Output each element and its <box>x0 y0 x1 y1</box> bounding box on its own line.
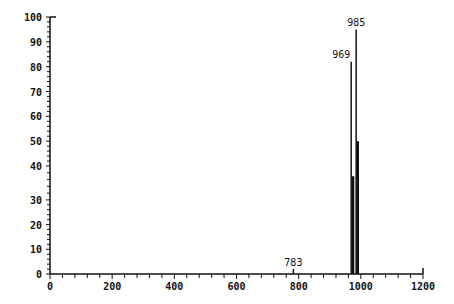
y-axis: 0102030405060708090100 <box>24 12 56 280</box>
x-axis: 020040060080010001200 <box>47 268 435 292</box>
y-tick-label: 10 <box>30 244 42 255</box>
y-tick-label: 40 <box>30 161 42 172</box>
x-tick-label: 400 <box>165 281 183 292</box>
y-tick-label: 30 <box>30 195 42 206</box>
peak-label: 783 <box>284 257 302 268</box>
peaks: 783969985 <box>284 17 365 274</box>
x-tick-label: 1000 <box>349 281 373 292</box>
x-tick-label: 600 <box>227 281 245 292</box>
y-tick-label: 70 <box>30 87 42 98</box>
spectrum-chart: 0102030405060708090100 02004006008001000… <box>0 0 454 304</box>
x-tick-label: 1200 <box>411 281 435 292</box>
y-tick-label: 100 <box>24 12 42 23</box>
y-tick-label: 0 <box>36 269 42 280</box>
peak-label: 985 <box>347 17 365 28</box>
y-tick-label: 20 <box>30 220 42 231</box>
x-tick-label: 0 <box>47 281 53 292</box>
peak-label: 969 <box>332 49 350 60</box>
x-tick-label: 200 <box>103 281 121 292</box>
y-tick-label: 50 <box>30 136 42 147</box>
y-tick-label: 90 <box>30 37 42 48</box>
x-tick-label: 800 <box>290 281 308 292</box>
y-tick-label: 80 <box>30 62 42 73</box>
y-tick-label: 60 <box>30 111 42 122</box>
